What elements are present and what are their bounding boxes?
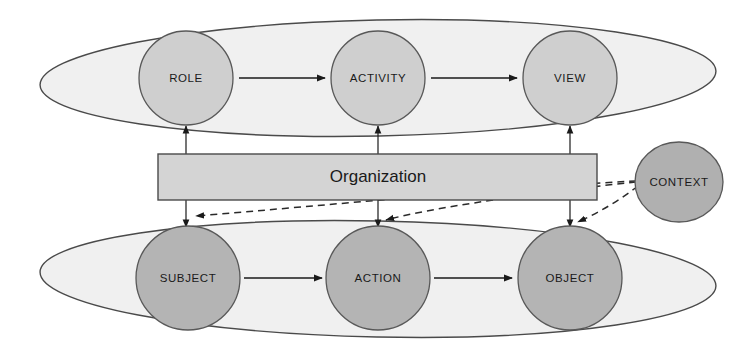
view-label: VIEW [554, 72, 586, 84]
action-label: ACTION [354, 272, 401, 284]
organization-label: Organization [330, 167, 426, 186]
model-diagram: ROLE ACTIVITY VIEW SUBJECT ACTION OBJECT [0, 0, 754, 351]
node-subject[interactable]: SUBJECT [136, 226, 240, 330]
subject-label: SUBJECT [160, 272, 217, 284]
node-view[interactable]: VIEW [523, 31, 617, 125]
node-object[interactable]: OBJECT [518, 226, 622, 330]
node-context[interactable]: CONTEXT [635, 142, 723, 222]
role-label: ROLE [169, 72, 203, 84]
node-activity[interactable]: ACTIVITY [331, 31, 425, 125]
node-action[interactable]: ACTION [326, 226, 430, 330]
diagram-canvas: ROLE ACTIVITY VIEW SUBJECT ACTION OBJECT [0, 0, 754, 351]
organization-box[interactable]: Organization [158, 154, 597, 200]
context-label: CONTEXT [649, 176, 708, 188]
node-role[interactable]: ROLE [139, 31, 233, 125]
activity-label: ACTIVITY [350, 72, 407, 84]
object-label: OBJECT [546, 272, 595, 284]
